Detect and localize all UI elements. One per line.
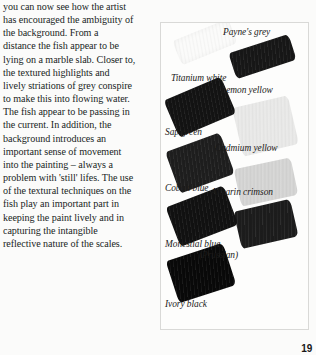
swatch-label-alizarin-crimson: Alizarin crimson <box>211 187 273 198</box>
body-line: important sense of movement <box>3 145 155 158</box>
swatch-label-ivory-black: Ivory black <box>165 299 207 310</box>
body-line: you can now see how the artist <box>3 0 155 13</box>
body-line: the background. From a <box>3 26 155 39</box>
body-line: the current. In addition, the <box>3 118 155 131</box>
body-line: background introduces an <box>3 132 155 145</box>
body-line: distance the fish appear to be <box>3 39 155 52</box>
body-line: lying on a marble slab. Closer to, <box>3 53 155 66</box>
swatch-label-cadmium-yellow: Cadmium yellow <box>215 143 278 154</box>
swatch-label-lemon-yellow: Lemon yellow <box>221 85 273 96</box>
body-line: capturing the intangible <box>3 224 155 237</box>
swatch-label-paynes-grey: Payne's grey <box>223 27 270 38</box>
swatch-label-monestial-blue-line2: (Prussian) <box>199 250 238 261</box>
body-line: of the textural techniques on the <box>3 184 155 197</box>
body-line: keeping the paint lively and in <box>3 211 155 224</box>
body-paragraph: you can now see how the artist has encou… <box>3 0 155 250</box>
swatch-label-cobalt-blue: Cobalt blue <box>165 183 208 194</box>
swatch-label-monestial-blue: Monestial blue <box>165 239 220 250</box>
body-line: lively striations of grey conspire <box>3 79 155 92</box>
page-number: 19 <box>301 343 312 354</box>
paint-swatch-panel: Titanium whitePayne's greyLemon yellowSa… <box>160 22 309 330</box>
body-line: fish play an important part in <box>3 197 155 210</box>
body-line: into the painting – always a <box>3 158 155 171</box>
body-line: problem with 'still' lifes. The use <box>3 171 155 184</box>
book-page: you can now see how the artist has encou… <box>0 0 316 355</box>
body-line: to make this into flowing water. <box>3 92 155 105</box>
swatch-paynes-grey <box>228 34 296 79</box>
swatch-label-titanium-white: Titanium white <box>171 73 226 84</box>
body-line: The fish appear to be passing in <box>3 105 155 118</box>
swatch-alizarin-crimson <box>233 199 298 249</box>
body-text-column: you can now see how the artist has encou… <box>3 0 155 250</box>
body-line: has encouraged the ambiguity of <box>3 13 155 26</box>
body-line: reflective nature of the scales. <box>3 237 155 250</box>
swatch-cadmium-yellow <box>234 157 299 206</box>
swatch-label-sap-green: Sap green <box>165 127 202 138</box>
body-line: the textured highlights and <box>3 66 155 79</box>
